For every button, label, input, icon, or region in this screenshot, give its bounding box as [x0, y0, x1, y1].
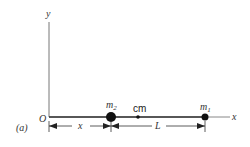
- mass-m1-label: m1: [200, 101, 211, 114]
- center-of-mass-point: [136, 115, 140, 119]
- mass-m2: [106, 112, 116, 122]
- two-mass-diagram: y x O (a) m2 cm m1 x L: [0, 0, 250, 147]
- mass-m1: [202, 114, 209, 121]
- origin-label: O: [39, 113, 46, 124]
- mass-m2-label: m2: [106, 99, 117, 112]
- x-axis-label: x: [231, 111, 237, 122]
- dimension-L-label: L: [154, 120, 161, 131]
- panel-label: (a): [16, 122, 28, 134]
- center-of-mass-label: cm: [133, 103, 146, 114]
- dimension-x-label: x: [77, 120, 83, 131]
- y-axis-label: y: [45, 8, 51, 19]
